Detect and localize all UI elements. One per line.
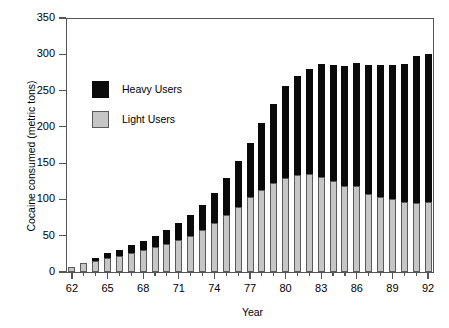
y-axis-title: Cocaine consumed (metric tons) [25,41,37,271]
y-tick-mark [59,271,66,272]
x-tick-mark [427,272,428,279]
legend-label-light-users: Light Users [122,113,175,125]
bar-segment-heavy-users [389,65,396,199]
bar-segment-heavy-users [377,65,384,197]
bar-segment-heavy-users [247,143,254,197]
bar-84 [330,18,337,272]
bar-segment-light-users [425,202,432,272]
x-tick-mark [166,272,167,276]
legend-label-heavy-users: Heavy Users [122,83,182,95]
y-tick-label: 350 [37,12,55,23]
bar-segment-heavy-users [152,236,159,248]
bar-75 [223,18,230,272]
x-tick-label: 71 [167,282,191,294]
bar-segment-light-users [294,175,301,272]
x-tick-mark [226,272,227,276]
bar-74 [211,18,218,272]
bar-67 [128,18,135,272]
bar-segment-light-users [413,203,420,272]
bar-89 [389,18,396,272]
bar-70 [163,18,170,272]
bar-segment-light-users [187,236,194,272]
bar-segment-light-users [140,250,147,272]
bar-segment-heavy-users [92,258,99,262]
x-tick-mark [249,272,250,279]
bar-segment-light-users [377,197,384,272]
x-tick-mark [71,272,72,279]
bar-segment-light-users [341,186,348,272]
bar-68 [140,18,147,272]
x-tick-mark [392,272,393,279]
x-tick-label: 74 [202,282,226,294]
bar-segment-heavy-users [223,178,230,216]
bar-segment-heavy-users [306,69,313,174]
bar-62 [68,18,75,272]
bar-segment-light-users [128,253,135,272]
bar-segment-heavy-users [104,253,111,258]
bar-71 [175,18,182,272]
bar-segment-heavy-users [282,86,289,178]
y-tick-mark [59,90,66,91]
legend-item-light-users: Light Users [92,108,182,130]
bar-segment-light-users [175,240,182,272]
bar-segment-heavy-users [425,54,432,202]
x-tick-label: 92 [416,282,440,294]
bar-80 [282,18,289,272]
chart-figure: Cocaine consumed (metric tons) 050100150… [0,0,449,328]
bar-segment-heavy-users [330,65,337,181]
bar-segment-heavy-users [270,104,277,184]
bar-72 [187,18,194,272]
bar-segment-heavy-users [175,223,182,240]
y-tick-mark [59,163,66,164]
bar-81 [294,18,301,272]
bar-87 [365,18,372,272]
bar-segment-light-users [104,258,111,272]
y-tick-label: 50 [43,230,55,241]
bar-82 [306,18,313,272]
bar-63 [80,18,87,272]
bar-segment-heavy-users [163,230,170,245]
x-tick-label: 86 [345,282,369,294]
bar-85 [341,18,348,272]
bar-segment-heavy-users [341,66,348,186]
bar-series-group [66,18,434,272]
bar-79 [270,18,277,272]
x-tick-mark [309,272,310,276]
x-tick-mark [344,272,345,276]
x-tick-mark [202,272,203,276]
y-tick-mark [59,54,66,55]
bar-segment-light-users [318,177,325,272]
legend-item-heavy-users: Heavy Users [92,78,182,100]
x-tick-mark [261,272,262,276]
bar-segment-heavy-users [365,65,372,193]
bar-segment-heavy-users [116,250,123,257]
bar-66 [116,18,123,272]
x-tick-mark [107,272,108,279]
chart-legend: Heavy Users Light Users [92,78,182,138]
x-tick-mark [380,272,381,276]
x-tick-mark [356,272,357,279]
bar-segment-light-users [389,199,396,272]
x-tick-mark [404,272,405,276]
x-tick-label: 62 [60,282,84,294]
bar-segment-light-users [152,247,159,272]
bar-segment-light-users [258,190,265,272]
y-tick-mark [59,199,66,200]
bar-83 [318,18,325,272]
y-tick-mark [59,126,66,127]
bar-91 [413,18,420,272]
y-tick-label: 0 [49,266,55,277]
x-tick-mark [332,272,333,276]
bar-90 [401,18,408,272]
x-tick-mark [119,272,120,276]
x-axis-title-text: Year [242,306,263,318]
y-tick-label: 100 [37,193,55,204]
x-tick-mark [238,272,239,276]
bar-88 [377,18,384,272]
bar-segment-light-users [330,181,337,272]
bar-86 [353,18,360,272]
bar-65 [104,18,111,272]
bar-segment-light-users [163,244,170,272]
bar-segment-light-users [365,194,372,272]
bar-segment-heavy-users [187,215,194,236]
